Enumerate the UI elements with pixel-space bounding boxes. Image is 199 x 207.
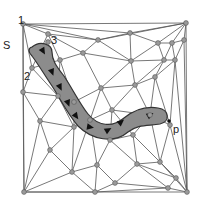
- mesh-node: [166, 186, 171, 191]
- mesh-edge: [72, 172, 95, 192]
- label-end-p: p: [173, 123, 179, 135]
- mesh-edge: [60, 53, 83, 60]
- mesh-node: [38, 119, 43, 124]
- mesh-edge: [101, 61, 131, 88]
- mesh-node: [46, 32, 51, 37]
- mesh-node: [96, 38, 101, 43]
- mesh-node: [58, 58, 63, 63]
- mesh-edge: [135, 77, 155, 85]
- mesh-node: [185, 190, 190, 195]
- mesh-node: [174, 176, 179, 181]
- mesh-node: [182, 38, 187, 43]
- mesh-node: [131, 133, 136, 138]
- mesh-node: [162, 58, 167, 63]
- mesh-edge: [40, 96, 58, 121]
- mesh-edge: [115, 164, 137, 183]
- label-node-3: 3: [51, 34, 57, 46]
- mesh-edge: [23, 24, 32, 68]
- mesh-node: [99, 86, 104, 91]
- mesh-node: [113, 181, 118, 186]
- mesh-edge: [133, 135, 160, 162]
- mesh-node: [93, 190, 98, 195]
- mesh-node: [129, 59, 134, 64]
- mesh-edge: [101, 85, 135, 88]
- mesh-node: [81, 51, 86, 56]
- mesh-node: [48, 148, 53, 153]
- mesh-edge: [40, 121, 74, 127]
- mesh-edge: [50, 150, 72, 172]
- mesh-node: [135, 162, 140, 167]
- mesh-edge: [83, 53, 101, 88]
- mesh-node: [153, 75, 158, 80]
- label-start-s: S: [3, 39, 10, 51]
- mesh-edge: [155, 60, 164, 77]
- mesh-edge: [160, 125, 170, 162]
- mesh-edge: [83, 53, 131, 61]
- label-node-1: 1: [18, 14, 24, 26]
- mesh-node: [70, 170, 75, 175]
- mesh-edge: [130, 33, 158, 43]
- mesh-edge: [98, 33, 130, 40]
- mesh-edge: [95, 188, 168, 192]
- mesh-edge: [95, 165, 97, 192]
- mesh-edge: [97, 140, 110, 165]
- mesh-node: [128, 31, 133, 36]
- mesh-node: [72, 125, 77, 130]
- mesh-node: [168, 123, 173, 128]
- mesh-edge: [137, 164, 168, 188]
- mesh-edge: [131, 43, 158, 61]
- mesh-node: [158, 160, 163, 165]
- mesh-edge: [24, 121, 40, 192]
- mesh-edge: [40, 121, 50, 150]
- mesh-edge: [72, 165, 97, 172]
- mesh-edge: [155, 60, 175, 77]
- mesh-edge: [83, 40, 98, 53]
- path-band: [29, 43, 167, 139]
- mesh-edge: [164, 43, 172, 60]
- mesh-node: [22, 190, 27, 195]
- mesh-node: [108, 138, 113, 143]
- point-p-dot: [167, 119, 171, 123]
- mesh-edge: [95, 183, 115, 192]
- mesh-node: [156, 41, 161, 46]
- mesh-edge: [137, 164, 176, 178]
- mesh-edge: [115, 183, 168, 188]
- mesh-edge: [23, 24, 98, 40]
- mesh-edge: [170, 60, 175, 125]
- mesh-edge: [110, 140, 137, 164]
- mesh-edge: [72, 127, 74, 172]
- triangulation-diagram: 1 S 3 2 p: [0, 0, 199, 207]
- mesh-edge: [131, 60, 164, 61]
- mesh-edge: [23, 23, 186, 24]
- mesh-edge: [24, 150, 50, 192]
- mesh-edge: [133, 135, 137, 164]
- mesh-edge: [112, 85, 135, 110]
- mesh-node: [88, 118, 93, 123]
- label-node-2: 2: [24, 70, 30, 82]
- mesh-edge: [131, 61, 135, 85]
- mesh-edge: [158, 43, 164, 60]
- mesh-edge: [23, 92, 40, 121]
- mesh-node: [170, 41, 175, 46]
- mesh-node: [173, 58, 178, 63]
- mesh-edge: [23, 92, 58, 96]
- mesh-node: [133, 83, 138, 88]
- mesh-node: [56, 94, 61, 99]
- mesh-node: [148, 113, 153, 118]
- mesh-edge: [97, 165, 115, 183]
- mesh-edge: [135, 60, 164, 85]
- mesh-edge: [50, 127, 74, 150]
- mesh-node: [72, 100, 77, 105]
- mesh-node: [95, 163, 100, 168]
- mesh-edge: [24, 172, 72, 192]
- mesh-edge: [130, 33, 131, 61]
- mesh-node: [30, 66, 35, 71]
- mesh-node: [184, 21, 189, 26]
- mesh-edge: [175, 40, 184, 60]
- mesh-node: [110, 108, 115, 113]
- mesh-node: [46, 40, 51, 45]
- mesh-edge: [23, 24, 130, 33]
- mesh-edge: [137, 162, 160, 164]
- mesh-node: [21, 90, 26, 95]
- mesh-edge: [160, 162, 176, 178]
